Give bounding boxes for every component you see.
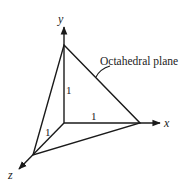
x-intercept-label: 1 [91,110,97,122]
y-intercept-label: 1 [66,84,72,96]
y-axis-label: y [57,12,64,26]
z-intercept-label: 1 [45,126,51,138]
callout-leader [96,66,110,77]
octahedral-plane-diagram: y x z 1 1 1 Octahedral plane [0,0,185,188]
z-axis-label: z [7,168,13,182]
octahedral-plane-caption: Octahedral plane [100,55,178,68]
x-axis-label: x [163,116,170,130]
z-axis [19,123,64,169]
